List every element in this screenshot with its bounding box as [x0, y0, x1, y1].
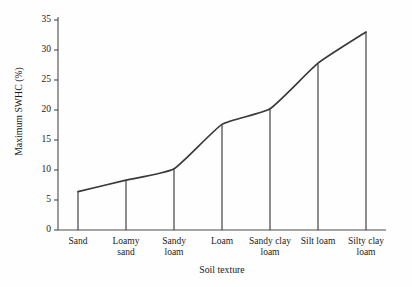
y-tick-label: 0: [18, 225, 51, 235]
y-axis-title: Maximum SWHC (%): [13, 47, 24, 177]
y-tick-label: 5: [18, 195, 51, 205]
category-drop-lines: [78, 32, 366, 230]
x-tick-label-line: Silty clay: [332, 236, 400, 247]
x-tick-label-line: loam: [332, 247, 400, 258]
x-tick-label: Silty clayloam: [332, 236, 400, 257]
x-axis-title: Soil texture: [58, 264, 386, 275]
y-tick-marks: [54, 20, 58, 230]
chart-figure: 05101520253035 SandLoamysandSandyloamLoa…: [0, 0, 412, 287]
x-tick-label-line: loam: [236, 247, 304, 258]
x-tick-label-line: loam: [140, 247, 208, 258]
y-tick-label: 35: [18, 15, 51, 25]
